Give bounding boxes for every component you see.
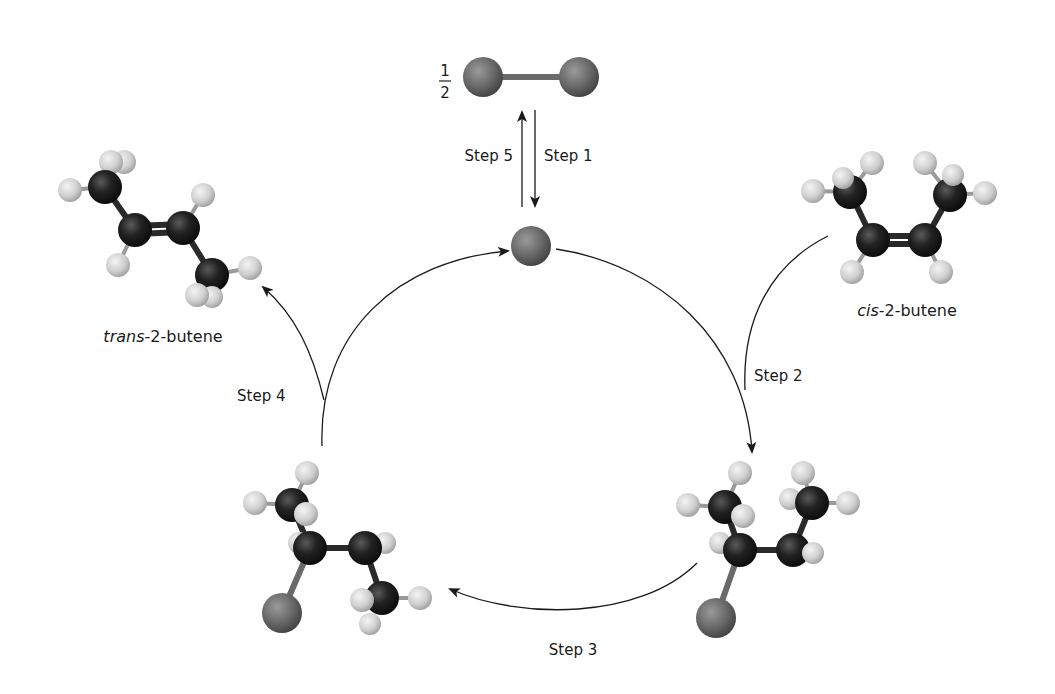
catalyst-atom-right bbox=[559, 57, 599, 97]
cis-2-butene-model bbox=[801, 151, 997, 284]
fraction-denominator: 2 bbox=[440, 84, 450, 102]
catalytic-cycle-diagram: 1 2 Step 5 Step 1 Step 2 Step 3 Step 4 bbox=[0, 0, 1055, 694]
step2-arrow bbox=[556, 249, 752, 452]
intermediate-right-model bbox=[676, 461, 860, 638]
step2-label: Step 2 bbox=[754, 367, 802, 385]
cis-2-butene-label: cis-2-butene bbox=[857, 301, 957, 320]
intermediate-left-model bbox=[243, 461, 432, 635]
trans-release-arrow bbox=[263, 287, 324, 400]
fraction-numerator: 1 bbox=[440, 62, 450, 80]
step4-arrow bbox=[322, 251, 508, 446]
trans-2-butene-label: trans-2-butene bbox=[103, 327, 222, 346]
diatomic-molecule: 1 2 bbox=[439, 57, 599, 102]
trans-2-butene-model bbox=[58, 150, 262, 308]
catalyst-atom-center bbox=[511, 226, 551, 266]
step5-label: Step 5 bbox=[465, 147, 513, 165]
step3-arrow bbox=[450, 563, 697, 610]
step3-label: Step 3 bbox=[549, 641, 597, 659]
step1-label: Step 1 bbox=[544, 147, 592, 165]
step4-label: Step 4 bbox=[237, 387, 285, 405]
catalyst-atom-left bbox=[463, 57, 503, 97]
